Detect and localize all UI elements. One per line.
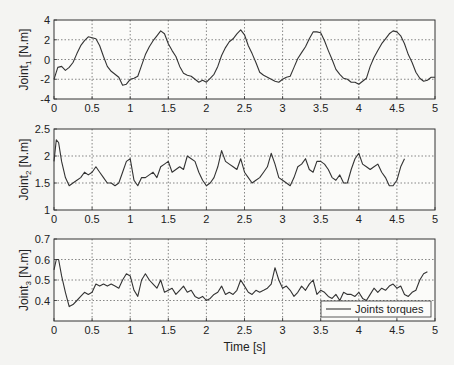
x-tick-label: 1 bbox=[127, 213, 133, 225]
x-tick-label: 4.5 bbox=[389, 102, 404, 114]
legend-label: Joints torques bbox=[355, 303, 424, 315]
y-tick-label: 0.4 bbox=[35, 295, 50, 307]
x-tick-label: 4 bbox=[356, 324, 362, 336]
x-tick-label: 5 bbox=[432, 102, 438, 114]
y-tick-label: 2 bbox=[44, 34, 50, 46]
y-tick-label: 0.7 bbox=[35, 233, 50, 245]
x-tick-label: 0.5 bbox=[84, 102, 99, 114]
legend: Joints torques bbox=[321, 301, 431, 317]
y-tick-label: 0.5 bbox=[35, 274, 50, 286]
y-tick-label: -2 bbox=[40, 73, 50, 85]
x-tick-label: 2 bbox=[203, 102, 209, 114]
x-tick-label: 3.5 bbox=[313, 324, 328, 336]
x-tick-label: 2.5 bbox=[237, 213, 252, 225]
x-tick-label: 1 bbox=[127, 102, 133, 114]
x-tick-label: 1.5 bbox=[161, 213, 176, 225]
x-tick-label: 4 bbox=[356, 102, 362, 114]
x-tick-label: 5 bbox=[432, 324, 438, 336]
y-tick-label: 0.6 bbox=[35, 254, 50, 266]
x-tick-label: 1 bbox=[127, 324, 133, 336]
plot-area bbox=[54, 129, 435, 210]
x-tick-label: 4.5 bbox=[389, 324, 404, 336]
x-tick-label: 3 bbox=[280, 102, 286, 114]
x-tick-label: 2 bbox=[203, 324, 209, 336]
x-tick-label: 3 bbox=[280, 324, 286, 336]
subplot-3: 00.511.522.533.544.550.40.50.60.7Joint3 … bbox=[17, 233, 438, 354]
x-tick-label: 2 bbox=[203, 213, 209, 225]
x-tick-label: 0 bbox=[51, 324, 57, 336]
y-tick-label: 2 bbox=[44, 150, 50, 162]
y-axis-label: Joint3 [N.m] bbox=[17, 249, 33, 311]
x-tick-label: 1.5 bbox=[161, 324, 176, 336]
x-tick-label: 4 bbox=[356, 213, 362, 225]
x-tick-label: 2.5 bbox=[237, 102, 252, 114]
x-tick-label: 0.5 bbox=[84, 213, 99, 225]
x-tick-label: 5 bbox=[432, 213, 438, 225]
y-tick-label: 1.5 bbox=[35, 177, 50, 189]
subplot-2: 00.511.522.533.544.5511.522.5Joint2 [N.m… bbox=[17, 123, 438, 225]
x-tick-label: 0 bbox=[51, 213, 57, 225]
y-tick-label: -4 bbox=[40, 93, 50, 105]
x-tick-label: 0 bbox=[51, 102, 57, 114]
figure: 00.511.522.533.544.55-4-2024Joint1 [N.m]… bbox=[0, 0, 454, 365]
x-tick-label: 1.5 bbox=[161, 102, 176, 114]
y-tick-label: 1 bbox=[44, 204, 50, 216]
x-tick-label: 3.5 bbox=[313, 102, 328, 114]
x-axis-label: Time [s] bbox=[223, 340, 265, 354]
x-tick-label: 3 bbox=[280, 213, 286, 225]
subplot-1: 00.511.522.533.544.55-4-2024Joint1 [N.m] bbox=[17, 14, 438, 114]
y-tick-label: 0 bbox=[44, 54, 50, 66]
x-tick-label: 2.5 bbox=[237, 324, 252, 336]
y-axis-label: Joint2 [N.m] bbox=[17, 139, 33, 201]
x-tick-label: 4.5 bbox=[389, 213, 404, 225]
y-axis-label: Joint1 [N.m] bbox=[17, 29, 33, 91]
x-tick-label: 3.5 bbox=[313, 213, 328, 225]
y-tick-label: 4 bbox=[44, 14, 50, 26]
y-tick-label: 2.5 bbox=[35, 123, 50, 135]
x-tick-label: 0.5 bbox=[84, 324, 99, 336]
